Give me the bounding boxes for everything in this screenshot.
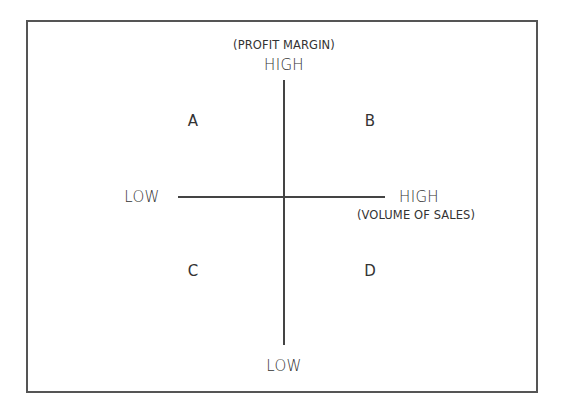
x-axis-title: (VOLUME OF SALES) bbox=[357, 210, 475, 222]
y-axis-low-label: LOW bbox=[266, 359, 301, 374]
quadrant-d-label: D bbox=[364, 264, 376, 279]
horizontal-axis-volume-of-sales bbox=[178, 196, 385, 198]
quadrant-b-label: B bbox=[365, 114, 375, 129]
vertical-axis-profit-margin bbox=[283, 80, 285, 345]
y-axis-title: (PROFIT MARGIN) bbox=[233, 40, 335, 52]
quadrant-c-label: C bbox=[188, 264, 198, 279]
x-axis-high-label: HIGH bbox=[399, 190, 439, 205]
y-axis-high-label: HIGH bbox=[264, 58, 304, 73]
diagram-frame bbox=[26, 20, 538, 393]
x-axis-low-label: LOW bbox=[124, 190, 159, 205]
quadrant-a-label: A bbox=[188, 114, 198, 129]
